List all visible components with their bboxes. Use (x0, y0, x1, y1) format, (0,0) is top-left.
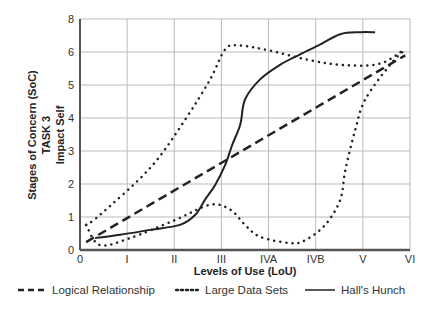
legend-item-logical-relationship: Logical Relationship (18, 284, 155, 296)
x-tick-label: IVB (307, 253, 325, 265)
legend-item-large-data-sets: Large Data Sets (175, 284, 288, 296)
x-tick-label: III (217, 253, 226, 265)
y-tick-label: 4 (68, 112, 74, 124)
y-axis-title: Stages of Concern (SoC) TASK 3 Impact Se… (26, 70, 66, 200)
legend: Logical Relationship Large Data Sets Hal… (0, 284, 435, 308)
chart: 01234568 0IIIIIIIVAIVBVVI Levels of Use … (0, 0, 435, 284)
x-tick-label: 0 (77, 253, 83, 265)
y-tick-label: 0 (68, 244, 74, 256)
x-tick-label: IVA (260, 253, 278, 265)
solid-line-icon (305, 287, 335, 293)
x-axis-title: Levels of Use (LoU) (194, 265, 297, 277)
y-tick-label: 3 (68, 145, 74, 157)
y-tick-label: 5 (68, 79, 74, 91)
series-logical-relationship (86, 55, 405, 242)
series-group (86, 32, 405, 246)
legend-item-halls-hunch: Hall's Hunch (305, 284, 405, 296)
dotted-line-icon (175, 287, 199, 293)
x-tick-label: V (359, 253, 367, 265)
legend-label: Hall's Hunch (341, 284, 405, 296)
series-large-data-sets (86, 45, 405, 225)
series-hall-s-hunch (95, 32, 375, 238)
x-tick-label: VI (405, 253, 415, 265)
x-tick-label: II (171, 253, 177, 265)
y-tick-label: 2 (68, 178, 74, 190)
y-tick-label: 1 (68, 211, 74, 223)
legend-label: Large Data Sets (205, 284, 288, 296)
x-axis-ticks: 0IIIIIIIVAIVBVVI (77, 253, 415, 265)
y-axis-title-line-2: TASK 3 (40, 116, 52, 154)
y-tick-label: 6 (68, 46, 74, 58)
y-axis-ticks: 01234568 (68, 13, 74, 256)
legend-label: Logical Relationship (52, 284, 155, 296)
y-tick-label: 8 (68, 13, 74, 25)
dashed-line-icon (18, 287, 46, 293)
y-axis-title-line-1: Stages of Concern (SoC) (26, 70, 38, 200)
x-tick-label: I (126, 253, 129, 265)
y-axis-title-line-3: Impact Self (54, 105, 66, 164)
